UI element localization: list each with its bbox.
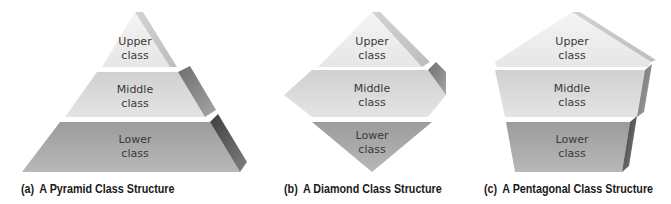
caption-diamond: (b)A Diamond Class Structure (284, 182, 442, 196)
caption-pyramid-text: A Pyramid Class Structure (39, 182, 174, 196)
svg-text:Upperclass: Upperclass (555, 35, 589, 62)
pyramid-middle-label-2: class (121, 97, 149, 110)
svg-text:Middleclass: Middleclass (554, 82, 591, 109)
caption-pyramid: (a)A Pyramid Class Structure (21, 182, 175, 196)
diamond-upper-label-2: class (358, 49, 386, 62)
pentagon-figure: Upperclass Middleclass Lowerclass (495, 12, 656, 172)
svg-text:Lowerclass: Lowerclass (356, 129, 389, 156)
pyramid-lower-label-1: Lower (119, 133, 152, 146)
diamond-middle-label-2: class (358, 96, 386, 109)
caption-pentagon-text: A Pentagonal Class Structure (502, 182, 653, 196)
svg-text:Middleclass: Middleclass (117, 83, 154, 110)
pyramid-upper-label-1: Upper (118, 35, 152, 48)
pyramid-upper-label-2: class (121, 49, 149, 62)
diamond-middle-label-1: Middle (354, 82, 391, 95)
diamond-lower-label-1: Lower (356, 129, 389, 142)
pentagon-upper-label-2: class (558, 49, 586, 62)
svg-text:Upperclass: Upperclass (355, 35, 389, 62)
diamond-figure: Upperclass Middleclass Lowerclass (284, 12, 446, 172)
pentagon-lower-label-2: class (558, 147, 586, 160)
pentagon-middle-label-1: Middle (554, 82, 591, 95)
pentagon-middle-label-2: class (558, 96, 586, 109)
diamond-upper-label-1: Upper (355, 35, 389, 48)
caption-pentagon-tag: (c) (484, 182, 497, 196)
pentagon-lower-label-1: Lower (556, 133, 589, 146)
class-structure-diagrams: Upperclass Middleclass Lowerclass Upperc… (0, 0, 671, 204)
pyramid-middle-label-1: Middle (117, 83, 154, 96)
caption-diamond-tag: (b) (284, 182, 298, 196)
caption-pentagon: (c)A Pentagonal Class Structure (484, 182, 653, 196)
pyramid-figure: Upperclass Middleclass Lowerclass (22, 12, 247, 172)
caption-pyramid-tag: (a) (21, 182, 34, 196)
pyramid-lower-label-2: class (121, 147, 149, 160)
diamond-lower-label-2: class (358, 143, 386, 156)
caption-diamond-text: A Diamond Class Structure (303, 182, 442, 196)
svg-text:Middleclass: Middleclass (354, 82, 391, 109)
svg-text:Lowerclass: Lowerclass (556, 133, 589, 160)
svg-text:Upperclass: Upperclass (118, 35, 152, 62)
svg-text:Lowerclass: Lowerclass (119, 133, 152, 160)
pentagon-upper-label-1: Upper (555, 35, 589, 48)
